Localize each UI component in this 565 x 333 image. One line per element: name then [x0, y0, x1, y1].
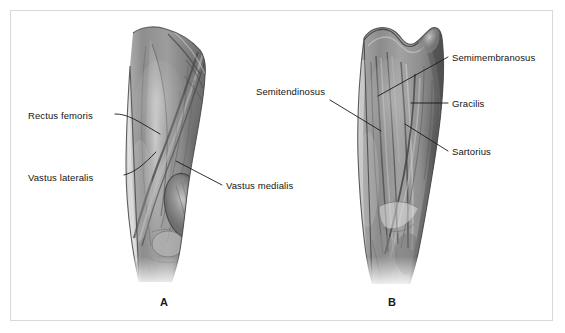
- anatomy-svg: [0, 0, 565, 333]
- label-vastus-medialis: Vastus medialis: [226, 180, 293, 191]
- label-rectus-femoris: Rectus femoris: [28, 110, 93, 121]
- label-semitendinosus: Semitendinosus: [256, 86, 325, 97]
- illustration-stage: [0, 0, 565, 333]
- panel-a-illustration: [118, 20, 213, 295]
- label-sartorius: Sartorius: [452, 146, 491, 157]
- panel-letter-a: A: [160, 296, 168, 308]
- label-semimembranosus: Semimembranosus: [452, 52, 535, 63]
- figure-root: Rectus femoris Vastus lateralis Vastus m…: [0, 0, 565, 333]
- label-gracilis: Gracilis: [452, 98, 484, 109]
- panel-b-illustration: [350, 20, 450, 295]
- panel-letter-b: B: [388, 296, 396, 308]
- label-vastus-lateralis: Vastus lateralis: [28, 172, 93, 183]
